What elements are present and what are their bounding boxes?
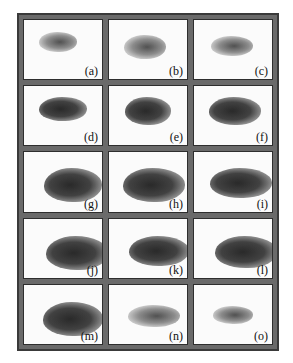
panel-label: (g)	[84, 198, 98, 210]
panel-label: (o)	[254, 330, 268, 342]
figure-panel: (e)	[108, 85, 188, 146]
figure-panel: (o)	[193, 284, 273, 345]
blob-image	[211, 36, 253, 56]
blob-image	[209, 97, 261, 125]
figure-panel: (n)	[108, 284, 188, 345]
figure-panel: (k)	[108, 218, 188, 279]
blob-image	[39, 97, 87, 121]
blob-image	[125, 97, 171, 125]
panel-label: (n)	[169, 330, 183, 342]
panel-label: (i)	[257, 198, 268, 210]
figure-panel: (b)	[108, 19, 188, 80]
figure-panel: (j)	[23, 218, 103, 279]
panel-label: (d)	[84, 131, 98, 143]
figure-panel-grid: (a)(b)(c)(d)(e)(f)(g)(h)(i)(j)(k)(l)(m)(…	[17, 13, 279, 351]
panel-label: (l)	[257, 264, 268, 276]
figure-panel: (g)	[23, 151, 103, 212]
blob-image	[213, 306, 253, 324]
blob-image	[124, 35, 166, 59]
panel-label: (m)	[81, 330, 98, 342]
blob-image	[210, 168, 272, 198]
blob-image	[129, 236, 188, 266]
panel-label: (k)	[169, 264, 183, 276]
panel-label: (h)	[169, 198, 183, 210]
blob-image	[39, 32, 77, 52]
panel-label: (b)	[169, 65, 183, 77]
panel-label: (e)	[170, 131, 183, 143]
figure-panel: (a)	[23, 19, 103, 80]
panel-label: (c)	[255, 65, 268, 77]
figure-panel: (h)	[108, 151, 188, 212]
figure-panel: (m)	[23, 284, 103, 345]
figure-panel: (c)	[193, 19, 273, 80]
figure-panel: (l)	[193, 218, 273, 279]
figure-panel: (d)	[23, 85, 103, 146]
panel-label: (j)	[87, 264, 98, 276]
blob-image	[128, 305, 180, 327]
panel-label: (f)	[256, 131, 268, 143]
panel-label: (a)	[85, 65, 98, 77]
figure-panel: (f)	[193, 85, 273, 146]
figure-panel: (i)	[193, 151, 273, 212]
